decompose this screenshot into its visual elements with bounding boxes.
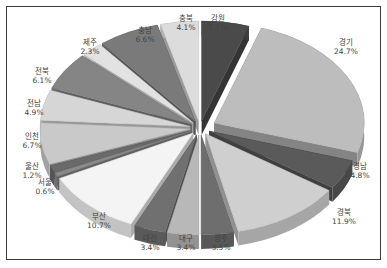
slice-label: 전북6.1% [32, 67, 51, 85]
pie-chart [0, 0, 387, 268]
slice-label: 경남4.8% [350, 162, 369, 180]
slice-label-value: 4.8% [350, 171, 369, 180]
slice-label: 전남4.9% [24, 99, 43, 117]
slice-label-value: 6.1% [32, 76, 51, 85]
slice-label: 경북11.9% [332, 208, 356, 226]
slice-label-value: 2.3% [80, 47, 99, 56]
slice-label: 충남6.6% [135, 26, 154, 44]
slice-label-name: 강원 [208, 14, 227, 23]
slice-label: 광주3.5% [211, 234, 230, 252]
slice-label-name: 경기 [334, 38, 358, 47]
slice-label-name: 인천 [22, 132, 41, 141]
slice-label-value: 0.6% [35, 187, 54, 196]
slice-label: 제주2.3% [80, 38, 99, 56]
slice-label: 강원5.1% [208, 14, 227, 32]
slice-label-value: 10.7% [87, 221, 111, 230]
slice-label-value: 1.2% [22, 171, 41, 180]
slice-label-value: 4.1% [176, 23, 195, 32]
slice-label-value: 6.6% [135, 35, 154, 44]
slice-label-name: 대구 [176, 234, 195, 243]
slice-label: 대전3.4% [140, 234, 159, 252]
slice-label-name: 광주 [211, 234, 230, 243]
slice-label-value: 11.9% [332, 217, 356, 226]
slice-label: 경기24.7% [334, 38, 358, 56]
slice-label-name: 제주 [80, 38, 99, 47]
slice-label-name: 대전 [140, 234, 159, 243]
slice-label-value: 3.4% [176, 243, 195, 252]
slice-label: 서울0.6% [35, 178, 54, 196]
slice-label-name: 충북 [176, 14, 195, 23]
slice-label-value: 5.1% [208, 23, 227, 32]
slice-label-value: 6.7% [22, 141, 41, 150]
slice-label-value: 3.4% [140, 243, 159, 252]
slice-label-name: 울산 [22, 162, 41, 171]
slice-label-name: 전북 [32, 67, 51, 76]
slice-label: 부산10.7% [87, 212, 111, 230]
slice-label: 대구3.4% [176, 234, 195, 252]
slice-label-name: 경북 [332, 208, 356, 217]
slice-label-value: 4.9% [24, 108, 43, 117]
slice-label-name: 충남 [135, 26, 154, 35]
slice-label-value: 24.7% [334, 47, 358, 56]
slice-label: 인천6.7% [22, 132, 41, 150]
slice-label-name: 경남 [350, 162, 369, 171]
slice-label: 울산1.2% [22, 162, 41, 180]
slice-label-value: 3.5% [211, 243, 230, 252]
slice-label-name: 전남 [24, 99, 43, 108]
slice-label-name: 부산 [87, 212, 111, 221]
slice-label: 충북4.1% [176, 14, 195, 32]
